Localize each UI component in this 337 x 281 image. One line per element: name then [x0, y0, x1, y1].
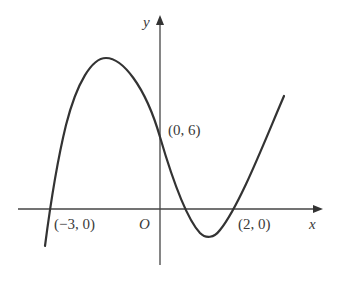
point-label-0-6: (0, 6) [168, 122, 201, 139]
y-axis-label: y [141, 14, 150, 30]
origin-label: O [139, 216, 150, 232]
function-graph: y x O (−3, 0) (0, 6) (2, 0) [0, 0, 337, 281]
x-axis-label: x [308, 216, 316, 232]
point-label-neg3-0: (−3, 0) [54, 216, 95, 233]
point-label-2-0: (2, 0) [238, 216, 271, 233]
